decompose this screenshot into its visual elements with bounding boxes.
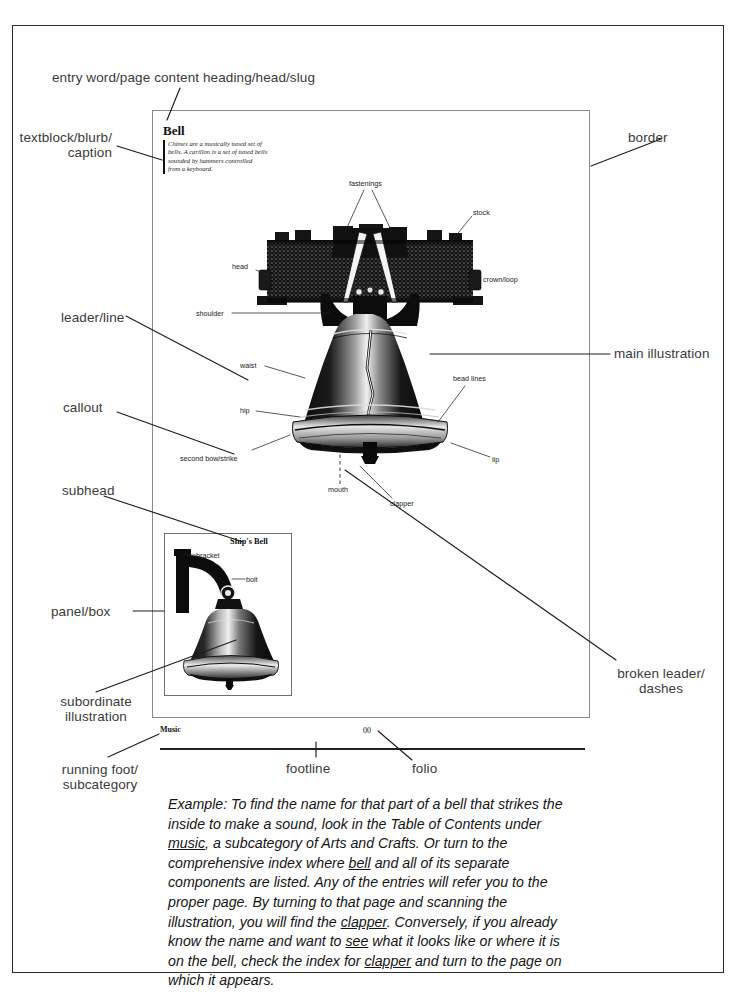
example-term-music: music [168, 835, 205, 851]
annotation-main-illustration: main illustration [614, 346, 710, 361]
blurb-line-3: sounded by hammers controlled [168, 157, 252, 164]
annotation-subordinate-illustration: subordinate illustration [32, 694, 160, 724]
annotation-panel-box: panel/box [51, 604, 110, 619]
annotation-running-foot: running foot/ subcategory [36, 762, 164, 792]
example-term-see: see [345, 933, 368, 949]
annotation-footline: footline [286, 761, 330, 776]
part-label-fastenings: fastenings [349, 179, 382, 188]
blurb-line-1: Chimes are a musically tuned set of [168, 140, 262, 147]
example-text-line-1: Example: To find the name for that part … [168, 796, 563, 812]
textblock-rule [163, 140, 165, 174]
part-label-stock: stock [473, 208, 490, 217]
example-text-line-4: comprehensive index where bell and all o… [168, 855, 510, 871]
example-term-clapper-1: clapper [341, 914, 387, 930]
example-paragraph: Example: To find the name for that part … [168, 795, 588, 991]
part-label-second-bow-strike: second bow/strike [180, 454, 238, 463]
folio-number: 00 [363, 726, 371, 735]
annotation-entry-word: entry word/page content heading/head/slu… [52, 70, 315, 85]
footline-rule [160, 748, 585, 750]
running-foot: Music [160, 725, 181, 734]
example-text-line-8: know the name and want to see what it lo… [168, 933, 560, 949]
annotation-subhead: subhead [62, 483, 115, 498]
part-label-clapper: clapper [390, 499, 414, 508]
example-text-line-5: components are listed. Any of the entrie… [168, 874, 548, 890]
subordinate-illustration-ships-bell [170, 545, 286, 691]
part-label-crown-loop: crown/loop [483, 275, 518, 284]
part-label-waist: waist [240, 361, 256, 370]
example-text-line-10: which it appears. [168, 972, 274, 988]
annotation-callout: callout [63, 400, 103, 415]
main-illustration-bell [255, 218, 485, 468]
annotation-folio: folio [412, 761, 437, 776]
blurb-line-2: bells. A carillon is a set of tuned bell… [168, 148, 267, 155]
example-text-line-3: music, a subcategory of Arts and Crafts.… [168, 835, 507, 851]
annotation-leader-line: leader/line [61, 310, 124, 325]
part-label-bolt: bolt [246, 575, 258, 584]
annotation-textblock: textblock/blurb/ caption [0, 130, 112, 160]
part-label-bracket: bracket [196, 551, 220, 560]
annotation-broken-leader: broken leader/ dashes [596, 666, 726, 696]
part-label-shoulder: shoulder [196, 309, 224, 318]
example-text-line-6: proper page. By turning to that page and… [168, 894, 507, 910]
textblock-blurb: Chimes are a musically tuned set of bell… [168, 140, 300, 174]
part-label-hip: hip [240, 406, 250, 415]
example-text-line-2: inside to make a sound, look in the Tabl… [168, 816, 541, 832]
entry-word: Bell [163, 123, 185, 139]
part-label-lip: lip [492, 455, 499, 464]
part-label-bead-lines: bead lines [453, 374, 486, 383]
example-text-line-9: on the bell, check the index for clapper… [168, 953, 562, 969]
figure-canvas: Bell Chimes are a musically tuned set of… [0, 0, 738, 998]
part-label-head: head [232, 262, 248, 271]
annotation-border: border [628, 130, 668, 145]
example-text-line-7: illustration, you will find the clapper.… [168, 914, 557, 930]
blurb-line-4: from a keyboard. [168, 165, 213, 172]
example-term-bell: bell [349, 855, 371, 871]
part-label-mouth: mouth [328, 485, 348, 494]
example-term-clapper-2: clapper [364, 953, 411, 969]
